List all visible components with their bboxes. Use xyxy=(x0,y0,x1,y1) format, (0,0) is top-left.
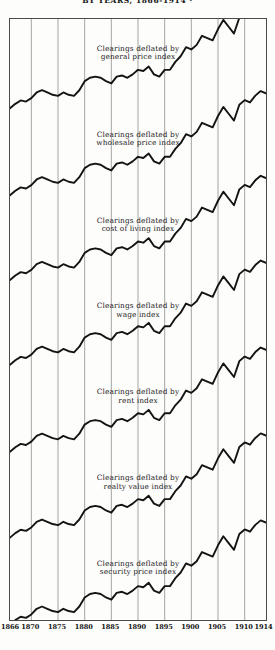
x-tick-1866: 1866 xyxy=(1,623,19,631)
series-label-7: Clearings deflated bysecurity price inde… xyxy=(97,560,179,577)
series-label-line2: rent index xyxy=(97,397,179,406)
x-tick-1885: 1885 xyxy=(101,623,119,631)
x-tick-1914: 1914 xyxy=(255,623,273,631)
series-label-5: Clearings deflated byrent index xyxy=(97,388,179,405)
x-tick-1910: 1910 xyxy=(235,623,253,631)
x-tick-1895: 1895 xyxy=(155,623,173,631)
series-label-line1: Clearings deflated by xyxy=(97,130,179,139)
x-tick-1900: 1900 xyxy=(181,623,199,631)
series-label-2: Clearings deflated bywholesale price ind… xyxy=(96,131,180,148)
series-label-line2: wage index xyxy=(97,311,179,320)
figure-title: BY YEARS, 1866-1914 · xyxy=(0,0,275,5)
x-tick-1875: 1875 xyxy=(48,623,66,631)
series-label-line1: Clearings deflated by xyxy=(97,216,179,225)
x-tick-1880: 1880 xyxy=(75,623,93,631)
series-label-layer: Clearings deflated bygeneral price index… xyxy=(10,19,266,620)
series-label-line2: general price index xyxy=(97,53,179,62)
series-label-line1: Clearings deflated by xyxy=(97,559,179,568)
figure-page: BY YEARS, 1866-1914 · Clearings deflated… xyxy=(0,0,275,650)
series-label-line2: cost of living index xyxy=(97,225,179,234)
series-label-line2: wholesale price index xyxy=(96,139,180,148)
series-label-6: Clearings deflated byrealty value index xyxy=(97,474,179,491)
figure-title-line: BY YEARS, 1866-1914 · xyxy=(0,0,275,5)
x-axis-tick-labels: 1866187018751880188518901895190019051910… xyxy=(0,623,275,637)
series-label-line1: Clearings deflated by xyxy=(97,473,179,482)
series-label-line1: Clearings deflated by xyxy=(97,44,179,53)
plot-area: Clearings deflated bygeneral price index… xyxy=(9,18,267,621)
series-label-line2: security price index xyxy=(97,568,179,577)
series-label-3: Clearings deflated bycost of living inde… xyxy=(97,217,179,234)
x-tick-1890: 1890 xyxy=(128,623,146,631)
x-tick-1905: 1905 xyxy=(208,623,226,631)
series-label-line2: realty value index xyxy=(97,483,179,492)
series-label-line1: Clearings deflated by xyxy=(97,301,179,310)
series-label-4: Clearings deflated bywage index xyxy=(97,302,179,319)
series-label-line1: Clearings deflated by xyxy=(97,387,179,396)
series-label-1: Clearings deflated bygeneral price index xyxy=(97,45,179,62)
x-tick-1870: 1870 xyxy=(21,623,39,631)
